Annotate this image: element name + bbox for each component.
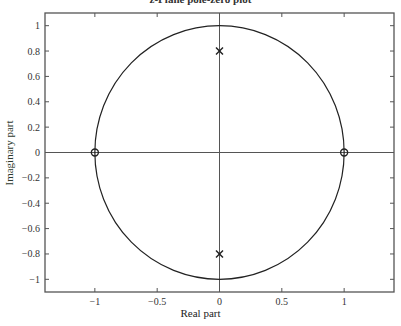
y-tick-label: 0.8 xyxy=(28,46,41,57)
y-tick-label: −0.2 xyxy=(22,172,40,183)
x-tick-label: −0.5 xyxy=(148,296,166,307)
pole-zero-plot: −1−0.500.5110.80.60.40.20−0.2−0.4−0.6−0.… xyxy=(0,0,401,326)
y-tick-label: −0.8 xyxy=(22,248,40,259)
x-tick-label: 0.5 xyxy=(276,296,289,307)
y-tick-label: 1 xyxy=(35,20,40,31)
y-tick-label: 0 xyxy=(35,147,40,158)
y-tick-label: 0.2 xyxy=(28,122,41,133)
x-tick-label: 1 xyxy=(342,296,347,307)
x-tick-label: 0 xyxy=(217,296,222,307)
y-tick-label: −0.4 xyxy=(22,198,40,209)
x-tick-label: −1 xyxy=(90,296,101,307)
y-tick-label: 0.4 xyxy=(28,96,41,107)
y-tick-label: 0.6 xyxy=(28,71,41,82)
y-tick-label: −0.6 xyxy=(22,223,40,234)
y-tick-label: −1 xyxy=(29,274,40,285)
